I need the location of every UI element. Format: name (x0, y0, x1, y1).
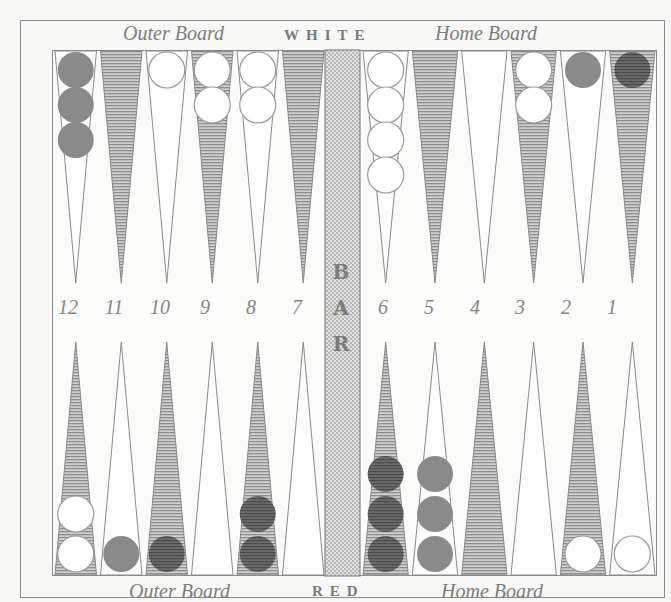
red-checker[interactable] (58, 87, 94, 123)
point-number-5: 5 (409, 296, 449, 319)
red-checker[interactable] (58, 52, 94, 88)
white-checker[interactable] (58, 536, 94, 572)
bottom-point-21[interactable] (462, 342, 507, 575)
red-checker[interactable] (149, 536, 185, 572)
red-checker[interactable] (368, 496, 404, 532)
top-point-11[interactable] (101, 51, 143, 283)
point-number-11: 11 (94, 296, 134, 319)
point-number-4: 4 (455, 296, 495, 319)
white-checker[interactable] (565, 536, 601, 572)
point-number-12: 12 (48, 296, 88, 319)
red-checker[interactable] (417, 456, 453, 492)
red-checker[interactable] (58, 122, 94, 158)
red-checker[interactable] (368, 536, 404, 572)
bottom-point-22[interactable] (511, 342, 556, 575)
white-checker[interactable] (516, 87, 552, 123)
top-point-7[interactable] (283, 51, 325, 283)
red-checker[interactable] (240, 496, 276, 532)
point-number-9: 9 (185, 296, 225, 319)
red-checker[interactable] (417, 496, 453, 532)
bar-letter-b: B (329, 260, 353, 284)
white-checker[interactable] (240, 52, 276, 88)
bottom-point-18[interactable] (283, 342, 325, 575)
red-checker[interactable] (103, 536, 139, 572)
red-checker[interactable] (417, 536, 453, 572)
white-checker[interactable] (368, 52, 404, 88)
point-number-6: 6 (363, 296, 403, 319)
red-checker[interactable] (565, 52, 601, 88)
white-checker[interactable] (240, 87, 276, 123)
point-number-2: 2 (546, 296, 586, 319)
bottom-point-16[interactable] (192, 342, 234, 575)
white-checker[interactable] (58, 496, 94, 532)
point-number-8: 8 (231, 296, 271, 319)
red-checker[interactable] (614, 52, 650, 88)
top-point-5[interactable] (412, 51, 457, 283)
point-number-3: 3 (500, 296, 540, 319)
top-point-4[interactable] (462, 51, 507, 283)
white-checker[interactable] (368, 87, 404, 123)
point-number-1: 1 (592, 296, 632, 319)
bar-letter-r: R (329, 332, 353, 356)
white-checker[interactable] (614, 536, 650, 572)
white-checker[interactable] (194, 87, 230, 123)
point-number-10: 10 (140, 296, 180, 319)
bar-letter-a: A (329, 296, 353, 320)
white-checker[interactable] (516, 52, 552, 88)
white-checker[interactable] (149, 52, 185, 88)
point-number-7: 7 (277, 296, 317, 319)
white-checker[interactable] (368, 122, 404, 158)
white-checker[interactable] (194, 52, 230, 88)
red-checker[interactable] (240, 536, 276, 572)
white-checker[interactable] (368, 157, 404, 193)
red-checker[interactable] (368, 456, 404, 492)
